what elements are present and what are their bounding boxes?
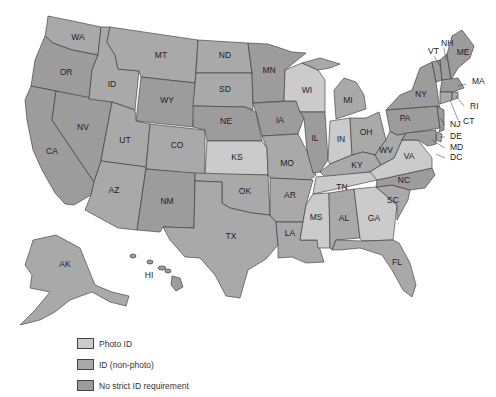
- state-label-sd: SD: [219, 84, 231, 94]
- state-label-wy: WY: [160, 95, 174, 105]
- state-ny[interactable]: [386, 62, 440, 110]
- state-fl[interactable]: [332, 240, 416, 297]
- state-label-mo: MO: [280, 158, 294, 168]
- state-label-ne: NE: [220, 116, 232, 126]
- state-label-ia: IA: [276, 115, 284, 125]
- state-label-nc: NC: [398, 175, 410, 185]
- legend-swatch-non-photo-id: [77, 359, 94, 370]
- legend-swatch-photo-id: [77, 338, 94, 349]
- legend-item-photo-id: Photo ID: [77, 333, 189, 354]
- state-label-wi: WI: [302, 85, 312, 95]
- state-label-pa: PA: [400, 113, 411, 123]
- state-label-nv: NV: [77, 122, 89, 132]
- state-ma[interactable]: [440, 78, 464, 92]
- state-label-nd: ND: [219, 50, 231, 60]
- state-label-nh: NH: [441, 38, 453, 48]
- state-ak[interactable]: [20, 235, 129, 325]
- state-label-nj: NJ: [450, 119, 460, 129]
- state-label-al: AL: [339, 213, 350, 223]
- state-label-ks: KS: [231, 152, 243, 162]
- state-label-la: LA: [285, 228, 296, 238]
- state-label-ms: MS: [310, 212, 323, 222]
- state-label-mi: MI: [343, 95, 352, 105]
- state-label-ky: KY: [351, 160, 363, 170]
- state-label-ma: MA: [472, 76, 485, 86]
- state-label-nm: NM: [160, 196, 173, 206]
- state-label-sc: SC: [387, 195, 399, 205]
- state-label-ct: CT: [463, 116, 474, 126]
- state-label-hi: HI: [145, 270, 154, 280]
- state-label-ri: RI: [470, 101, 479, 111]
- state-label-mn: MN: [262, 65, 275, 75]
- state-label-de: DE: [450, 131, 462, 141]
- state-label-ca: CA: [46, 146, 58, 156]
- state-label-in: IN: [337, 134, 346, 144]
- state-label-co: CO: [171, 140, 184, 150]
- legend-label-no-strict-id: No strict ID requirement: [99, 381, 189, 391]
- state-label-il: IL: [311, 133, 318, 143]
- state-label-ut: UT: [119, 135, 130, 145]
- state-label-ak: AK: [59, 259, 71, 269]
- state-label-tx: TX: [226, 231, 237, 241]
- state-label-tn: TN: [336, 182, 347, 192]
- legend-label-photo-id: Photo ID: [99, 339, 132, 349]
- state-label-ar: AR: [284, 190, 296, 200]
- state-label-az: AZ: [109, 185, 120, 195]
- legend-item-non-photo-id: ID (non-photo): [77, 354, 189, 375]
- state-label-fl: FL: [392, 257, 402, 267]
- legend-swatch-no-strict-id: [77, 380, 94, 391]
- state-label-mt: MT: [155, 50, 167, 60]
- state-hi[interactable]: [130, 254, 183, 291]
- state-label-wv: WV: [379, 145, 393, 155]
- us-voter-id-map: WAORCANVIDMTWYUTCOAZNMNDSDNEKSOKTXMNIAMO…: [0, 0, 496, 397]
- state-label-vt: VT: [428, 46, 439, 56]
- legend-item-no-strict-id: No strict ID requirement: [77, 375, 189, 396]
- state-label-ok: OK: [239, 186, 252, 196]
- state-label-wa: WA: [71, 32, 85, 42]
- state-label-dc: DC: [450, 152, 462, 162]
- state-label-md: MD: [450, 142, 463, 152]
- state-ri[interactable]: [452, 92, 458, 100]
- state-label-or: OR: [60, 67, 73, 77]
- state-label-va: VA: [404, 151, 415, 161]
- state-label-ny: NY: [415, 89, 427, 99]
- state-label-ga: GA: [368, 213, 381, 223]
- state-label-id: ID: [108, 79, 117, 89]
- map-legend: Photo ID ID (non-photo) No strict ID req…: [77, 333, 189, 396]
- legend-label-non-photo-id: ID (non-photo): [99, 360, 154, 370]
- state-label-me: ME: [457, 47, 470, 57]
- state-ct[interactable]: [440, 92, 452, 104]
- state-label-oh: OH: [360, 127, 373, 137]
